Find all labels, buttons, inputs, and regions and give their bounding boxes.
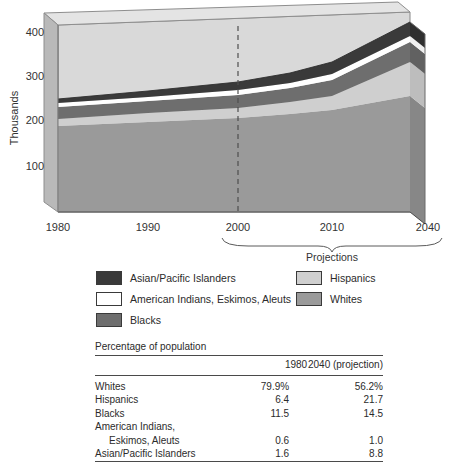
legend-swatch-asian-pacific-icon: [96, 271, 122, 285]
chart-canvas: 400 300 200 100 Thousands 1980 1990 2000…: [0, 0, 460, 265]
chart-legend: Asian/Pacific Islanders American Indians…: [96, 268, 436, 330]
x-tick-2040: 2040: [416, 221, 440, 233]
legend-item-hispanics[interactable]: Hispanics: [296, 268, 436, 288]
legend-label-blacks: Blacks: [130, 314, 161, 326]
chart-left-wall: [44, 13, 58, 212]
legend-label-whites: Whites: [330, 293, 362, 305]
x-tick-1980: 1980: [46, 221, 70, 233]
table-cell-2040: 56.2%: [307, 375, 383, 393]
legend-swatch-american-indians-icon: [96, 292, 122, 306]
table-cell-label: Whites: [95, 375, 230, 393]
legend-label-asian-pacific: Asian/Pacific Islanders: [130, 272, 236, 284]
table-cell-1980-blank: [230, 420, 307, 434]
y-tick-100: 100: [26, 160, 44, 172]
table-cell-2040-blank: [307, 420, 383, 434]
table-cell-1980: 0.6: [230, 434, 307, 448]
legend-item-whites[interactable]: Whites: [296, 289, 436, 309]
projections-label: Projections: [306, 251, 358, 263]
table-cell-label: Blacks: [95, 407, 230, 421]
table-row: Whites 79.9% 56.2%: [95, 375, 383, 393]
table-cell-2040: 1.0: [307, 434, 383, 448]
legend-swatch-whites-icon: [296, 292, 322, 306]
x-tick-2000: 2000: [226, 221, 250, 233]
table-caption: Percentage of population: [95, 341, 383, 355]
percentage-of-population-table-block: Percentage of population 1980 2040 (proj…: [95, 341, 383, 462]
table-cell-label-sub: Eskimos, Aleuts: [95, 434, 230, 448]
legend-item-asian-pacific[interactable]: Asian/Pacific Islanders: [96, 268, 296, 288]
x-tick-2010: 2010: [320, 221, 344, 233]
legend-swatch-blacks-icon: [96, 313, 122, 327]
legend-item-blacks[interactable]: Blacks: [96, 310, 296, 330]
y-axis-title: Thousands: [8, 90, 20, 145]
side-face-whites: [410, 96, 425, 224]
table-header-1980: 1980: [230, 356, 307, 376]
table-row-american-indians-line1: American Indians,: [95, 420, 383, 434]
table-cell-label: Hispanics: [95, 393, 230, 407]
projections-brace: [222, 238, 442, 252]
table-header-2040: 2040 (projection): [307, 356, 383, 376]
y-tick-200: 200: [26, 114, 44, 126]
table-row: Hispanics 6.4 21.7: [95, 393, 383, 407]
table-cell-1980: 1.6: [230, 447, 307, 461]
table-row: Asian/Pacific Islanders 1.6 8.8: [95, 447, 383, 461]
table-cell-2040: 8.8: [307, 447, 383, 461]
chart-right-depth-faces: [410, 22, 425, 224]
legend-label-hispanics: Hispanics: [330, 272, 376, 284]
x-tick-1990: 1990: [136, 221, 160, 233]
table-cell-label: Asian/Pacific Islanders: [95, 447, 230, 461]
legend-swatch-hispanics-icon: [296, 271, 322, 285]
legend-item-american-indians[interactable]: American Indians, Eskimos, Aleuts: [96, 289, 296, 309]
table-header-row: 1980 2040 (projection): [95, 356, 383, 376]
table-cell-2040: 14.5: [307, 407, 383, 421]
table-row: Blacks 11.5 14.5: [95, 407, 383, 421]
table-row-american-indians-line2: Eskimos, Aleuts 0.6 1.0: [95, 434, 383, 448]
table-cell-1980: 6.4: [230, 393, 307, 407]
table-cell-label: American Indians,: [95, 420, 230, 434]
population-area-chart: 400 300 200 100 Thousands 1980 1990 2000…: [0, 0, 460, 265]
table-header-blank: [95, 356, 230, 376]
legend-column-left: Asian/Pacific Islanders American Indians…: [96, 268, 296, 331]
percentage-of-population-table: 1980 2040 (projection) Whites 79.9% 56.2…: [95, 355, 383, 462]
table-cell-2040: 21.7: [307, 393, 383, 407]
legend-label-american-indians: American Indians, Eskimos, Aleuts: [130, 293, 291, 305]
y-tick-400: 400: [26, 26, 44, 38]
y-tick-300: 300: [26, 70, 44, 82]
legend-column-right: Hispanics Whites: [296, 268, 436, 310]
table-cell-1980: 11.5: [230, 407, 307, 421]
table-cell-1980: 79.9%: [230, 375, 307, 393]
